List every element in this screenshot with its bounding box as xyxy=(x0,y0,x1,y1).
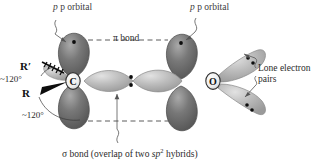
label-substituent-r-prime: R′ xyxy=(20,60,31,72)
leader-sigma-bond xyxy=(115,94,120,143)
label-p-orbital-left-text: p orbital xyxy=(60,2,92,12)
atom-label-carbon: C xyxy=(69,76,76,87)
atom-oxygen: O xyxy=(206,73,220,90)
sigma-bond-hybrid-carbon xyxy=(84,70,133,91)
electron-dot xyxy=(129,75,133,79)
label-pi-bond: π bond xyxy=(113,33,139,44)
label-substituent-r: R xyxy=(22,87,30,99)
label-bond-angle-upper: ~120° xyxy=(0,74,22,84)
electron-dot xyxy=(179,41,183,45)
label-p-orbital-left: p p orbital xyxy=(53,2,92,13)
label-lone-electron-pairs: Lone electron pairs xyxy=(258,63,311,84)
sigma-caption-post: hybrids) xyxy=(164,149,198,159)
electron-dot xyxy=(72,40,76,44)
label-bond-angle-lower: ~120° xyxy=(22,110,44,120)
electron-dot xyxy=(251,61,255,65)
label-lone-pairs-line2: pairs xyxy=(258,74,311,85)
lone-pair-lobe-lower-right xyxy=(218,84,265,115)
p-orbital-carbon-lower xyxy=(58,84,89,129)
electron-dot xyxy=(129,83,133,87)
electron-dot xyxy=(250,108,254,112)
figure-canvas: C O xyxy=(0,0,316,162)
p-orbital-oxygen-lower xyxy=(166,86,197,131)
label-lone-pairs-line1: Lone electron xyxy=(258,63,311,74)
atom-label-oxygen: O xyxy=(209,76,217,87)
label-p-orbital-right: p p orbital xyxy=(190,2,229,13)
electron-dot xyxy=(245,103,249,107)
label-p-orbital-right-text: p orbital xyxy=(197,2,229,12)
atom-carbon: C xyxy=(66,73,80,90)
label-sigma-bond-caption: σ bond (overlap of two sp2 hybrids) xyxy=(62,147,198,160)
sigma-caption-hybrid: sp xyxy=(152,149,160,159)
sigma-caption-pre: σ bond (overlap of two xyxy=(62,149,152,159)
